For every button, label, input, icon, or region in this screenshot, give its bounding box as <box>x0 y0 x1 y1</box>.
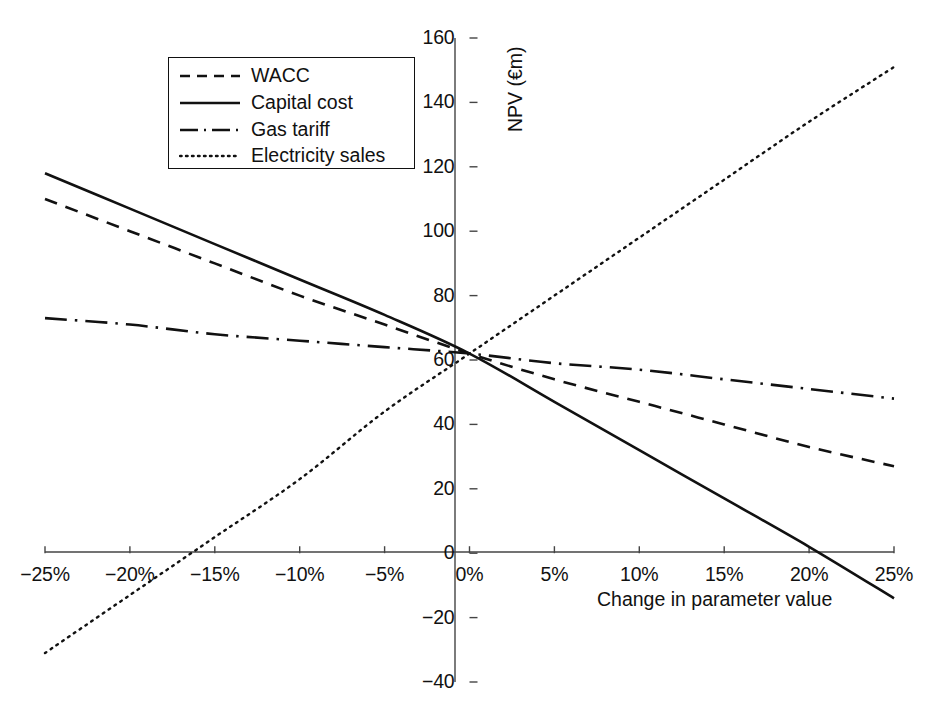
y-tick-label: 0 <box>360 541 455 564</box>
y-axis-title: NPV (€m) <box>504 46 527 132</box>
series-line-wacc <box>45 199 894 466</box>
x-tick-label: 20% <box>764 563 854 586</box>
x-tick-label: 0% <box>425 563 515 586</box>
legend-swatch-electricity-sales <box>179 148 241 164</box>
y-tick-label: −20 <box>360 606 455 629</box>
legend-swatch-wacc <box>179 68 241 84</box>
sensitivity-chart: −25%−20%−15%−10%−5%0%5%10%15%20%25%−40−2… <box>0 0 940 716</box>
y-tick-label: 60 <box>360 348 455 371</box>
legend-label-electricity-sales: Electricity sales <box>251 146 385 166</box>
x-tick-label: −15% <box>170 563 260 586</box>
series-line-gas-tariff <box>45 318 894 399</box>
legend-label-wacc: WACC <box>251 66 310 86</box>
legend: WACC Capital cost Gas tariff Electricity… <box>168 57 415 169</box>
series-line-capital-cost <box>45 173 894 598</box>
legend-item: Capital cost <box>179 89 353 117</box>
legend-item: Gas tariff <box>179 116 330 144</box>
x-axis-title: Change in parameter value <box>597 588 832 611</box>
x-tick-label: −10% <box>255 563 345 586</box>
x-tick-label: 10% <box>594 563 684 586</box>
y-tick-label: 160 <box>360 26 455 49</box>
y-tick-label: 40 <box>360 412 455 435</box>
y-tick-label: −40 <box>360 670 455 693</box>
x-tick-label: −20% <box>85 563 175 586</box>
y-tick-label: 80 <box>360 284 455 307</box>
legend-label-capital-cost: Capital cost <box>251 93 353 113</box>
x-tick-label: 5% <box>509 563 599 586</box>
x-tick-label: 15% <box>679 563 769 586</box>
legend-swatch-gas-tariff <box>179 122 241 138</box>
y-tick-label: 20 <box>360 477 455 500</box>
legend-item: WACC <box>179 62 310 90</box>
legend-item: Electricity sales <box>179 142 385 170</box>
legend-swatch-capital-cost <box>179 95 241 111</box>
legend-label-gas-tariff: Gas tariff <box>251 120 330 140</box>
x-tick-label: 25% <box>849 563 939 586</box>
y-tick-label: 100 <box>360 219 455 242</box>
x-tick-label: −5% <box>340 563 430 586</box>
x-tick-label: −25% <box>0 563 90 586</box>
